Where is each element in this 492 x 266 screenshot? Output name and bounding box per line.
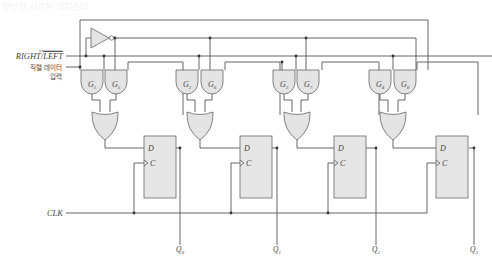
bidirectional-shift-register-diagram: RIGHT/LEFT 직렬 데이터 입력 CLK G1 G5 D C Q0 G2…: [0, 0, 492, 266]
or-gate: [380, 112, 406, 140]
inverter-gate: [91, 28, 114, 48]
clock-input-label: CLK: [47, 208, 64, 218]
wires: [66, 20, 492, 245]
svg-text:D: D: [147, 144, 154, 153]
output-label: Q1: [273, 245, 281, 255]
svg-text:D: D: [337, 144, 344, 153]
output-label: Q2: [372, 245, 380, 255]
output-label: Q3: [470, 245, 478, 255]
svg-text:D: D: [439, 144, 446, 153]
or-gate: [92, 112, 118, 140]
svg-text:C: C: [442, 159, 448, 168]
svg-text:C: C: [150, 159, 156, 168]
stage-3: G4 G8 D C Q3: [369, 70, 478, 255]
direction-input-label: RIGHT/LEFT: [15, 51, 65, 61]
stage-1: G2 G6 D C Q1: [176, 70, 281, 255]
svg-text:C: C: [340, 159, 346, 168]
or-gate: [284, 112, 310, 140]
or-gate: [187, 112, 213, 140]
stage-2: G3 G7 D C Q2: [273, 70, 380, 255]
serial-input-label: 직렬 데이터: [30, 63, 62, 72]
svg-text:D: D: [243, 144, 250, 153]
stage-0: G1 G5 D C Q0: [81, 70, 184, 255]
output-label: Q0: [176, 245, 184, 255]
svg-text:C: C: [246, 159, 252, 168]
serial-input-label-2: 입력: [50, 73, 62, 81]
